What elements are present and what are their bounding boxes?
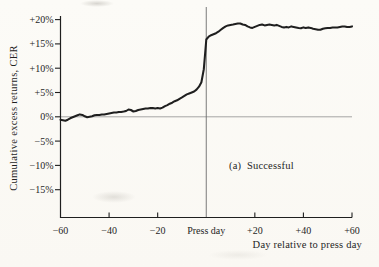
- x-tick-label: −20: [150, 225, 166, 236]
- x-tick-label: +60: [344, 225, 360, 236]
- x-tick-label: Press day: [187, 225, 225, 236]
- y-tick-label: 0%: [40, 111, 53, 122]
- x-tick-label: +40: [296, 225, 312, 236]
- event-study-chart: +20%+15%+10%+5%0%−5%−10%−15%−60−40−20Pre…: [0, 0, 379, 267]
- y-tick-label: −15%: [30, 184, 54, 195]
- y-tick-label: −10%: [30, 160, 54, 171]
- y-tick-label: +20%: [30, 14, 54, 25]
- y-tick-label: +15%: [30, 38, 54, 49]
- y-tick-label: −5%: [35, 136, 54, 147]
- y-axis-title: Cumulative excess returns, CER: [7, 33, 21, 203]
- panel-caption-successful: (a) Successful: [229, 160, 294, 171]
- chart-plot-area: +20%+15%+10%+5%0%−5%−10%−15%−60−40−20Pre…: [0, 0, 379, 267]
- y-tick-label: +5%: [35, 87, 54, 98]
- x-tick-label: +20: [247, 225, 263, 236]
- y-tick-label: +10%: [30, 63, 54, 74]
- x-tick-label: −60: [53, 225, 69, 236]
- x-axis-title: Day relative to press day: [253, 239, 362, 250]
- x-tick-label: −40: [101, 225, 117, 236]
